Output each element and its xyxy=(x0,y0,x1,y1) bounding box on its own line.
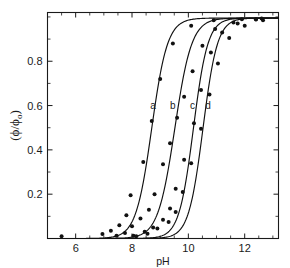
marker-a-10 xyxy=(189,24,193,28)
y-axis-title-group: (ϕ/ϕo) xyxy=(7,110,24,140)
marker-c-12 xyxy=(254,18,258,22)
marker-d-2 xyxy=(155,227,159,231)
x-tick-label-8: 8 xyxy=(129,242,135,254)
marker-c-7 xyxy=(192,121,196,125)
curve-label-a: a xyxy=(150,100,156,111)
marker-a-0 xyxy=(60,234,64,238)
plot-frame xyxy=(48,13,279,239)
marker-a-1 xyxy=(100,232,104,236)
ph-titration-plot: abcd 681012 0.20.40.60.8 pH (ϕ/ϕo) xyxy=(0,0,290,268)
x-tick-labels: 681012 xyxy=(73,242,251,254)
marker-d-0 xyxy=(134,234,138,238)
axes-box xyxy=(48,13,279,239)
marker-d-11 xyxy=(243,24,247,28)
y-tick-label-0.6: 0.6 xyxy=(27,100,42,112)
marker-b-11 xyxy=(200,44,204,48)
marker-d-12 xyxy=(261,18,265,22)
marker-d-8 xyxy=(207,92,211,96)
marker-a-6 xyxy=(141,160,145,164)
marker-d-1 xyxy=(146,232,150,236)
marker-d-6 xyxy=(189,161,193,165)
marker-c-8 xyxy=(199,88,203,92)
marker-a-7 xyxy=(150,119,154,123)
y-axis-title: (ϕ/ϕo) xyxy=(7,110,24,140)
marker-d-7 xyxy=(199,127,203,131)
marker-d-10 xyxy=(227,36,231,40)
marker-b-1 xyxy=(123,231,127,235)
axis-ticks xyxy=(48,13,279,239)
marker-d-5 xyxy=(181,190,185,194)
curve-b xyxy=(48,18,279,238)
y-axis-label: (ϕ/ϕo) xyxy=(7,110,24,140)
curve-label-b: b xyxy=(170,100,176,111)
marker-c-10 xyxy=(220,30,224,34)
curve-label-c: c xyxy=(190,100,195,111)
marker-b-10 xyxy=(191,69,195,73)
y-tick-labels: 0.20.40.60.8 xyxy=(27,55,42,200)
chart-figure: abcd 681012 0.20.40.60.8 pH (ϕ/ϕo) xyxy=(0,0,290,268)
curve-label-d: d xyxy=(205,100,211,111)
curve-c xyxy=(48,18,279,238)
x-axis-title: pH xyxy=(156,255,169,267)
marker-b-9 xyxy=(182,95,186,99)
curve-labels: abcd xyxy=(150,100,211,111)
marker-a-9 xyxy=(171,42,175,46)
marker-b-4 xyxy=(147,208,151,212)
marker-c-6 xyxy=(182,158,186,162)
x-tick-label-12: 12 xyxy=(239,242,251,254)
marker-a-8 xyxy=(158,77,162,81)
y-tick-label-0.8: 0.8 xyxy=(27,55,42,67)
marker-c-2 xyxy=(151,225,155,229)
x-tick-label-6: 6 xyxy=(73,242,79,254)
marker-b-5 xyxy=(153,192,157,196)
marker-b-7 xyxy=(168,141,172,145)
y-tick-label-0.2: 0.2 xyxy=(27,188,42,200)
curve-a xyxy=(48,18,279,238)
y-tick-label-0.4: 0.4 xyxy=(27,144,42,156)
marker-a-11 xyxy=(212,18,216,22)
data-markers xyxy=(60,16,265,238)
marker-b-2 xyxy=(130,224,134,228)
marker-c-4 xyxy=(168,207,172,211)
marker-c-5 xyxy=(174,187,178,191)
marker-c-3 xyxy=(161,218,165,222)
curve-d xyxy=(48,18,279,238)
marker-c-11 xyxy=(236,22,240,26)
marker-b-0 xyxy=(115,234,119,238)
marker-a-12 xyxy=(240,17,244,21)
x-tick-label-10: 10 xyxy=(182,242,194,254)
marker-d-4 xyxy=(174,210,178,214)
x-axis-label: pH xyxy=(156,255,169,267)
marker-c-9 xyxy=(209,50,213,54)
marker-b-3 xyxy=(138,217,142,221)
marker-d-3 xyxy=(167,220,171,224)
marker-b-13 xyxy=(231,20,235,24)
marker-a-5 xyxy=(129,193,133,197)
marker-b-8 xyxy=(175,116,179,120)
marker-d-9 xyxy=(216,61,220,65)
marker-b-6 xyxy=(161,162,165,166)
marker-a-2 xyxy=(109,229,113,233)
data-curves xyxy=(48,18,279,238)
marker-a-4 xyxy=(124,213,128,217)
marker-a-3 xyxy=(117,223,121,227)
marker-b-12 xyxy=(213,27,217,31)
